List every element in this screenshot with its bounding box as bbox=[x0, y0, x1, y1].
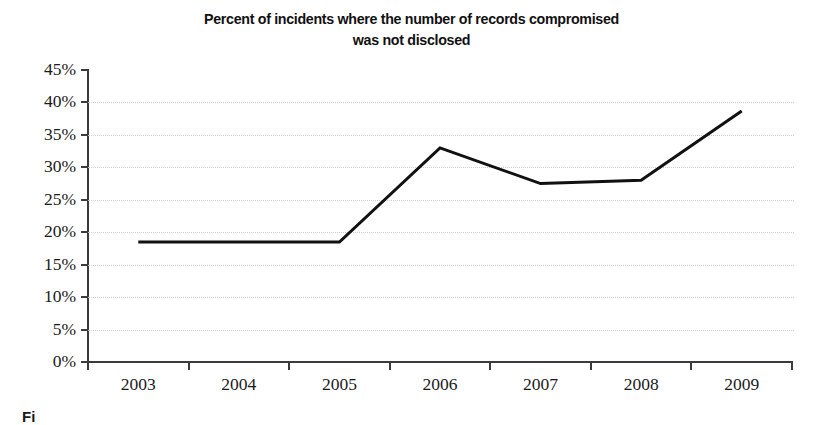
y-axis-tick bbox=[81, 166, 88, 168]
x-axis-tick bbox=[690, 362, 692, 370]
y-axis-tick bbox=[81, 199, 88, 201]
x-axis-tick-label: 2008 bbox=[591, 374, 691, 395]
x-axis-tick bbox=[791, 362, 793, 370]
x-axis-line bbox=[87, 361, 793, 363]
y-axis-tick bbox=[81, 101, 88, 103]
y-axis-tick bbox=[81, 296, 88, 298]
y-axis-tick-label: 35% bbox=[0, 124, 76, 145]
y-axis-line bbox=[87, 69, 89, 364]
y-axis-tick-label: 0% bbox=[0, 351, 76, 372]
y-axis-tick-label: 45% bbox=[0, 59, 76, 80]
y-gridline bbox=[88, 102, 794, 103]
y-gridline bbox=[88, 167, 794, 168]
x-axis-tick-label: 2007 bbox=[491, 374, 591, 395]
x-axis-tick bbox=[188, 362, 190, 370]
chart-figure: Percent of incidents where the number of… bbox=[0, 0, 823, 425]
x-axis-tick bbox=[489, 362, 491, 370]
chart-title: Percent of incidents where the number of… bbox=[33, 8, 790, 50]
caption-fragment: Fi bbox=[22, 409, 82, 425]
y-axis-tick bbox=[81, 329, 88, 331]
x-axis-tick bbox=[87, 362, 89, 370]
y-gridline bbox=[88, 297, 794, 298]
y-gridline bbox=[88, 135, 794, 136]
x-axis-tick-label: 2003 bbox=[88, 374, 188, 395]
y-gridline bbox=[88, 330, 794, 331]
y-axis-tick bbox=[81, 231, 88, 233]
y-axis-tick bbox=[81, 69, 88, 71]
y-gridline bbox=[88, 265, 794, 266]
y-gridline bbox=[88, 232, 794, 233]
x-axis-tick-label: 2005 bbox=[289, 374, 389, 395]
y-axis-tick-label: 40% bbox=[0, 91, 76, 112]
x-axis-tick-label: 2004 bbox=[189, 374, 289, 395]
y-axis-tick-label: 15% bbox=[0, 254, 76, 275]
y-axis-tick bbox=[81, 134, 88, 136]
y-gridline bbox=[88, 200, 794, 201]
y-axis-tick-label: 20% bbox=[0, 221, 76, 242]
y-axis-tick-label: 10% bbox=[0, 286, 76, 307]
y-axis-tick bbox=[81, 264, 88, 266]
x-axis-tick-label: 2009 bbox=[692, 374, 792, 395]
y-axis-tick-label: 5% bbox=[0, 319, 76, 340]
y-axis-tick-label: 30% bbox=[0, 156, 76, 177]
x-axis-tick bbox=[590, 362, 592, 370]
x-axis-tick-label: 2006 bbox=[390, 374, 490, 395]
series-polyline bbox=[138, 111, 741, 242]
x-axis-tick bbox=[389, 362, 391, 370]
y-axis-tick-label: 25% bbox=[0, 189, 76, 210]
x-axis-tick bbox=[288, 362, 290, 370]
